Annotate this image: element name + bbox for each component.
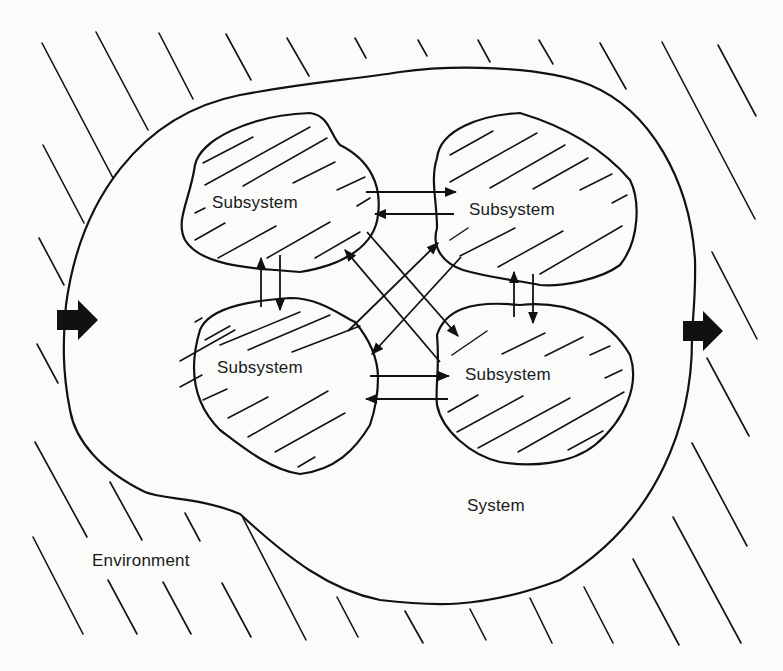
environment-label: Environment [92, 551, 190, 571]
subsystem-top-left-label: Subsystem [212, 193, 298, 213]
output-arrow-icon [683, 311, 723, 351]
subsystem-shapes [182, 113, 637, 474]
arrow-bl-to-tr [348, 243, 438, 331]
arrow-br-to-tl [345, 250, 440, 362]
system-boundary [64, 68, 695, 604]
arrow-tl-to-br-a [367, 232, 458, 336]
subsystem-top-right-label: Subsystem [469, 200, 555, 220]
subsystem-bottom-right-label: Subsystem [465, 365, 551, 385]
subsystem-bottom-left-label: Subsystem [217, 358, 303, 378]
system-label: System [467, 496, 525, 516]
arrow-tr-to-bl [372, 257, 461, 354]
system-diagram: Subsystem Subsystem Subsystem Subsystem … [0, 0, 783, 671]
subsystem-bottom-left-shape [194, 298, 378, 474]
subsystem-hatching [180, 127, 627, 467]
